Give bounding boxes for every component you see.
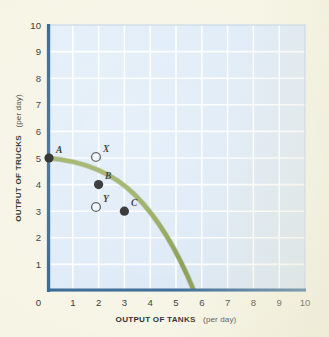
y-tick-labels: 10 9 8 7 6 5 4 3 2 1 0 [30, 20, 41, 309]
y-tick-label: 2 [36, 232, 41, 243]
y-tick-label: 10 [30, 20, 41, 31]
point-a-marker [44, 153, 53, 162]
x-tick-label: 5 [173, 297, 178, 308]
y-axis-title-bold: OUTPUT OF TRUCKS [14, 135, 23, 222]
x-axis-title-sub: (per day) [203, 315, 236, 324]
y-tick-label: 4 [36, 179, 42, 190]
ppf-chart-svg: X Y A B C 10 9 8 7 6 5 4 3 2 1 0 [0, 0, 329, 337]
y-axis-title-sub: (per day) [14, 94, 23, 127]
x-axis-title: OUTPUT OF TANKS (per day) [116, 308, 237, 325]
x-tick-labels: 1 2 3 4 5 6 7 8 9 10 [70, 297, 310, 308]
svg-text:OUTPUT OF TANKS (per d: OUTPUT OF TANKS (per day) [116, 308, 237, 325]
x-tick-label: 3 [122, 297, 127, 308]
point-x-label: X [102, 144, 110, 154]
y-tick-label: 3 [36, 206, 41, 217]
x-tick-label: 9 [277, 297, 282, 308]
point-c-marker [120, 207, 129, 216]
y-tick-label: 0 [36, 297, 41, 308]
x-axis-title-bold: OUTPUT OF TANKS [116, 315, 196, 324]
svg-text:OUTPUT OF TRUCKS (per: OUTPUT OF TRUCKS (per day) [7, 94, 24, 222]
y-tick-label: 5 [36, 153, 41, 164]
y-tick-label: 8 [36, 73, 41, 84]
y-tick-label: 1 [36, 259, 41, 270]
point-b-label: B [104, 171, 111, 181]
y-tick-label: 7 [36, 99, 41, 110]
y-axis-title: OUTPUT OF TRUCKS (per day) [7, 94, 24, 222]
x-tick-label: 1 [70, 297, 75, 308]
y-tick-label: 9 [36, 46, 41, 57]
x-tick-label: 8 [251, 297, 256, 308]
point-a-label: A [55, 145, 62, 155]
x-tick-label: 6 [199, 297, 204, 308]
point-b-marker [94, 180, 103, 189]
x-tick-label: 2 [96, 297, 101, 308]
point-c-label: C [131, 198, 138, 208]
y-tick-label: 6 [36, 126, 41, 137]
ppf-chart-figure: X Y A B C 10 9 8 7 6 5 4 3 2 1 0 [0, 0, 329, 337]
x-tick-label: 4 [148, 297, 154, 308]
point-x-marker [92, 153, 101, 162]
point-y-marker [92, 203, 101, 212]
x-tick-label: 7 [225, 297, 230, 308]
x-tick-label: 10 [300, 297, 311, 308]
